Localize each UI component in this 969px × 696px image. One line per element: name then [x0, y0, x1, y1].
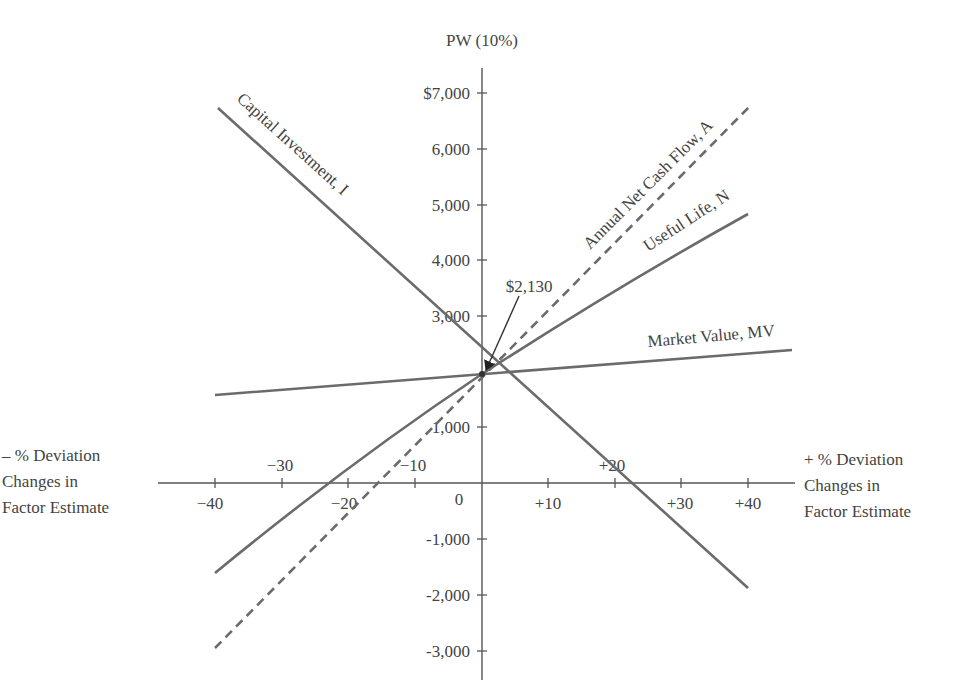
x-label-negative-line1: – % Deviation: [2, 443, 109, 469]
chart-title: PW (10%): [446, 31, 518, 50]
x-tick-label: −40: [197, 494, 224, 513]
x-label-positive-line2: Changes in: [804, 473, 911, 499]
x-tick-label: 0: [455, 490, 464, 509]
label-useful-life: Useful Life, N: [640, 186, 733, 256]
sensitivity-chart: PW (10%) $7,000 6,000 5,000 4,000 3,000 …: [0, 0, 969, 696]
x-tick-label: +40: [735, 494, 762, 513]
x-label-negative-line3: Factor Estimate: [2, 495, 109, 521]
x-label-negative: – % Deviation Changes in Factor Estimate: [2, 443, 109, 521]
annotation-label: $2,130: [506, 277, 553, 296]
x-label-positive-line3: Factor Estimate: [804, 499, 911, 525]
y-tick-label: -1,000: [426, 530, 470, 549]
y-tick-label: 6,000: [432, 140, 470, 159]
y-tick-label: 5,000: [432, 196, 470, 215]
x-label-negative-line2: Changes in: [2, 469, 109, 495]
y-tick-label: 3,000: [432, 307, 470, 326]
x-label-positive: + % Deviation Changes in Factor Estimate: [804, 447, 911, 525]
y-tick-label: 4,000: [432, 251, 470, 270]
label-capital-investment: Capital Investment, I: [233, 89, 352, 199]
x-tick-label: −30: [267, 456, 294, 475]
y-tick-label: $7,000: [423, 84, 470, 103]
label-market-value: Market Value, MV: [647, 321, 777, 351]
x-label-positive-line1: + % Deviation: [804, 447, 911, 473]
annotation-arrow: [486, 296, 519, 370]
intersection-point: [479, 371, 485, 377]
x-tick-label: +30: [667, 494, 694, 513]
y-tick-labels: $7,000 6,000 5,000 4,000 3,000 1,000 -1,…: [423, 84, 470, 661]
y-tick-label: -3,000: [426, 642, 470, 661]
label-annual-net-cash-flow: Annual Net Cash Flow, A: [579, 115, 717, 253]
x-tick-label: −10: [400, 456, 427, 475]
y-tick-label: -2,000: [426, 586, 470, 605]
x-tick-label: −20: [331, 494, 358, 513]
x-tick-label: +10: [535, 494, 562, 513]
